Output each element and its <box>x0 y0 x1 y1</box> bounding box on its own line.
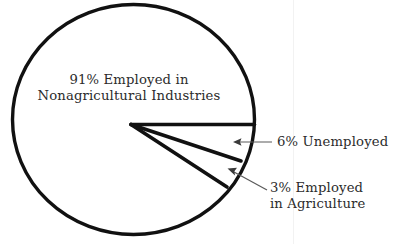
slice-label-nonagricultural: 91% Employed in Nonagricultural Industri… <box>36 72 222 103</box>
pie-chart-figure: 91% Employed in Nonagricultural Industri… <box>0 0 410 244</box>
slice-label-agriculture-line2: in Agriculture <box>270 196 366 212</box>
slice-label-agriculture-line1: 3% Employed <box>270 180 366 196</box>
pie-circle-outline <box>13 5 255 235</box>
slice-label-agriculture: 3% Employed in Agriculture <box>270 180 366 212</box>
slice-label-nonagricultural-line2: Nonagricultural Industries <box>36 88 222 104</box>
leader-line-agriculture <box>234 172 267 190</box>
slice-label-unemployed: 6% Unemployed <box>277 134 388 150</box>
slice-label-nonagricultural-line1: 91% Employed in <box>36 72 222 88</box>
